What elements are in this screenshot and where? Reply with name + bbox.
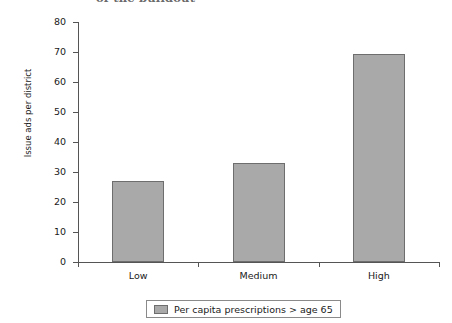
y-tick-label: 70 — [18, 47, 66, 57]
y-tick-label: 80 — [18, 17, 66, 27]
y-tick-mark — [73, 52, 78, 53]
y-tick-label-wrap: 20 — [18, 197, 66, 207]
y-tick-mark — [73, 22, 78, 23]
y-tick-mark — [73, 232, 78, 233]
y-tick-label-wrap: 70 — [18, 47, 66, 57]
bar — [353, 54, 405, 263]
y-tick-label: 0 — [18, 257, 66, 267]
x-tick-label: High — [329, 270, 429, 281]
y-tick-label: 40 — [18, 137, 66, 147]
chart-legend: Per capita prescriptions > age 65 — [146, 300, 341, 318]
chart-title-partial: of the buildout — [96, 0, 336, 3]
y-tick-label-wrap: 0 — [18, 257, 66, 267]
y-tick-mark — [73, 202, 78, 203]
bar — [112, 181, 164, 262]
y-tick-label-wrap: 30 — [18, 167, 66, 177]
x-tick-mark — [78, 262, 79, 267]
y-tick-label-wrap: 10 — [18, 227, 66, 237]
y-tick-mark — [73, 172, 78, 173]
bar — [233, 163, 285, 262]
y-tick-mark — [73, 82, 78, 83]
x-tick-mark — [319, 262, 320, 267]
y-tick-label-wrap: 50 — [18, 107, 66, 117]
y-tick-label: 60 — [18, 77, 66, 87]
legend-label: Per capita prescriptions > age 65 — [174, 304, 333, 315]
bar-chart: of the buildout Issue ads per district 0… — [0, 0, 452, 323]
x-tick-mark — [198, 262, 199, 267]
y-tick-label-wrap: 60 — [18, 77, 66, 87]
y-tick-label: 30 — [18, 167, 66, 177]
y-tick-label: 50 — [18, 107, 66, 117]
y-tick-mark — [73, 112, 78, 113]
legend-swatch-icon — [154, 305, 168, 314]
x-tick-label: Low — [88, 270, 188, 281]
y-tick-label: 10 — [18, 227, 66, 237]
x-axis-line — [78, 262, 439, 263]
x-tick-mark — [439, 262, 440, 267]
y-axis-line — [78, 22, 79, 263]
y-tick-label-wrap: 40 — [18, 137, 66, 147]
y-tick-label-wrap: 80 — [18, 17, 66, 27]
x-tick-label: Medium — [209, 270, 309, 281]
y-tick-mark — [73, 142, 78, 143]
y-tick-label: 20 — [18, 197, 66, 207]
